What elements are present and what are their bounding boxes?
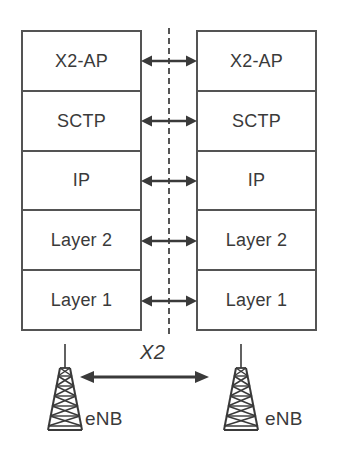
left-layer-ip: IP (23, 152, 140, 212)
left-layer-layer1-label: Layer 1 (51, 291, 112, 309)
left-layer-sctp: SCTP (23, 92, 140, 152)
enb-label-left: eNB (85, 408, 123, 430)
antenna-tower-icon-left (42, 344, 88, 438)
right-layer-x2ap: X2-AP (198, 32, 315, 92)
left-layer-ip-label: IP (73, 171, 90, 189)
x2-interface-arrow (80, 369, 209, 385)
peer-arrow-x2ap (141, 54, 197, 68)
right-layer-layer2: Layer 2 (198, 211, 315, 271)
left-enb-protocol-stack: X2-AP SCTP IP Layer 2 Layer 1 (21, 30, 142, 331)
right-layer-sctp-label: SCTP (232, 112, 281, 130)
right-layer-ip-label: IP (248, 171, 265, 189)
peer-arrow-layer1 (141, 294, 197, 308)
peer-arrow-sctp (141, 114, 197, 128)
left-layer-sctp-label: SCTP (57, 112, 106, 130)
peer-arrow-layer2 (141, 234, 197, 248)
left-layer-x2ap: X2-AP (23, 32, 140, 92)
left-layer-layer2: Layer 2 (23, 211, 140, 271)
left-layer-x2ap-label: X2-AP (55, 52, 108, 70)
enb-label-right: eNB (265, 408, 303, 430)
left-layer-layer1: Layer 1 (23, 271, 140, 329)
right-layer-layer1: Layer 1 (198, 271, 315, 329)
right-layer-x2ap-label: X2-AP (230, 52, 283, 70)
antenna-tower-icon-right (218, 344, 264, 438)
right-enb-protocol-stack: X2-AP SCTP IP Layer 2 Layer 1 (196, 30, 317, 331)
x2-interface-label: X2 (140, 341, 165, 364)
right-layer-layer2-label: Layer 2 (226, 231, 287, 249)
right-layer-sctp: SCTP (198, 92, 315, 152)
peer-arrow-ip (141, 174, 197, 188)
right-layer-ip: IP (198, 152, 315, 212)
left-layer-layer2-label: Layer 2 (51, 231, 112, 249)
x2-protocol-stack-diagram: X2-AP SCTP IP Layer 2 Layer 1 X2-AP SCTP… (0, 0, 338, 449)
right-layer-layer1-label: Layer 1 (226, 291, 287, 309)
